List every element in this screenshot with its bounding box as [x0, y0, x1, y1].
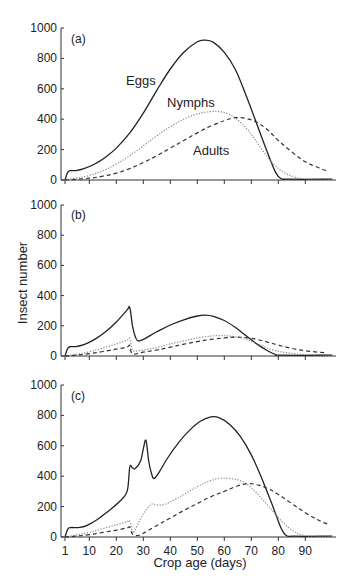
series-eggs-line	[65, 40, 332, 180]
y-tick-label: 800	[37, 408, 57, 422]
y-tick-label: 200	[37, 500, 57, 514]
x-tick-label: 30	[137, 544, 151, 558]
x-tick-label: 10	[83, 544, 97, 558]
y-tick-label: 0	[50, 173, 57, 187]
y-tick-label: 1000	[30, 198, 57, 212]
y-tick-label: 0	[50, 530, 57, 544]
y-tick-label: 400	[37, 469, 57, 483]
y-tick-label: 600	[37, 258, 57, 272]
y-tick-label: 1000	[30, 21, 57, 35]
x-tick-label: 80	[272, 544, 286, 558]
series-adults-line	[65, 484, 330, 537]
y-tick-label: 400	[37, 289, 57, 303]
y-tick-label: 400	[37, 112, 57, 126]
panel-c: 020040060080010001102030405060708090 (c)	[30, 378, 336, 558]
y-tick-label: 0	[50, 349, 57, 363]
series-nymphs-line	[65, 336, 332, 356]
y-tick-label: 200	[37, 319, 57, 333]
figure: 02004006008001000 (a) Eggs Nymphs Adults…	[0, 0, 352, 582]
y-tick-label: 600	[37, 82, 57, 96]
x-tick-label: 70	[245, 544, 259, 558]
y-tick-label: 800	[37, 228, 57, 242]
panel-c-lines	[65, 416, 332, 537]
y-tick-label: 800	[37, 51, 57, 65]
adults-label: Adults	[193, 143, 230, 158]
panel-b: 02004006008001000 (b)	[30, 198, 336, 363]
panel-c-label: (c)	[71, 389, 85, 403]
y-tick-label: 1000	[30, 378, 57, 392]
nymphs-label: Nymphs	[167, 95, 215, 110]
y-axis-title: Insect number	[15, 241, 30, 324]
panel-a-lines	[65, 40, 332, 180]
y-tick-label: 200	[37, 143, 57, 157]
panel-c-axes: 020040060080010001102030405060708090	[30, 378, 336, 558]
series-nymphs-line	[65, 478, 332, 537]
panel-a: 02004006008001000 (a) Eggs Nymphs Adults	[30, 21, 336, 187]
x-tick-label: 1	[62, 544, 69, 558]
series-adults-line	[65, 337, 327, 356]
x-axis-title: Crop age (days)	[153, 555, 246, 570]
x-tick-label: 90	[299, 544, 313, 558]
panel-a-label: (a)	[71, 32, 86, 46]
x-tick-label: 20	[110, 544, 124, 558]
series-eggs-line	[65, 416, 332, 537]
panel-b-axes: 02004006008001000	[30, 198, 336, 363]
panel-b-label: (b)	[71, 208, 86, 222]
panel-b-lines	[65, 306, 332, 356]
y-tick-label: 600	[37, 439, 57, 453]
eggs-label: Eggs	[126, 73, 156, 88]
series-eggs-line	[65, 306, 332, 356]
